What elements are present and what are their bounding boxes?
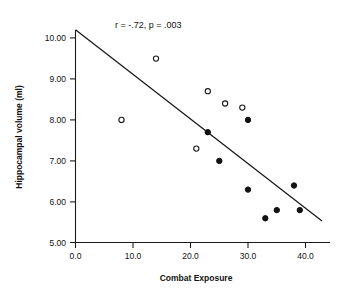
y-axis-title: Hippocampal volume (ml) xyxy=(14,85,24,189)
data-point-open xyxy=(153,56,158,61)
data-point-filled xyxy=(245,117,250,122)
data-point-filled xyxy=(263,216,268,221)
y-tick-label-8: 8.00 xyxy=(49,115,66,125)
data-point-open xyxy=(240,105,245,110)
data-point-filled xyxy=(297,207,302,212)
data-point-filled xyxy=(291,183,296,188)
y-tick-label-9: 9.00 xyxy=(49,74,66,84)
x-tick-label-0: 0.0 xyxy=(70,251,82,261)
x-tick-label-30: 30.0 xyxy=(240,251,257,261)
filled-marker-series xyxy=(205,117,302,221)
scatter-plot-figure: 10.00 9.00 8.00 7.00 6.00 5.00 0.0 10.0 … xyxy=(0,0,337,294)
x-tick-label-40: 40.0 xyxy=(297,251,314,261)
data-point-open xyxy=(119,117,124,122)
y-tick-label-6: 6.00 xyxy=(49,197,66,207)
data-point-filled xyxy=(274,207,279,212)
data-point-filled xyxy=(217,158,222,163)
y-axis-ticks xyxy=(70,38,76,243)
plot-canvas: 10.00 9.00 8.00 7.00 6.00 5.00 0.0 10.0 … xyxy=(0,0,337,294)
open-marker-series xyxy=(119,56,245,151)
x-axis-ticks xyxy=(76,243,306,249)
correlation-annotation: r = -.72, p = .003 xyxy=(115,20,182,30)
y-tick-label-5: 5.00 xyxy=(49,238,66,248)
x-tick-label-20: 20.0 xyxy=(182,251,199,261)
x-axis-title: Combat Exposure xyxy=(160,273,233,283)
x-tick-label-10: 10.0 xyxy=(125,251,142,261)
data-point-open xyxy=(194,146,199,151)
data-point-open xyxy=(205,89,210,94)
y-tick-label-10: 10.00 xyxy=(45,33,67,43)
y-tick-label-7: 7.00 xyxy=(49,156,66,166)
data-point-filled xyxy=(245,187,250,192)
data-point-filled xyxy=(205,130,210,135)
regression-line xyxy=(76,30,323,221)
data-point-open xyxy=(223,101,228,106)
